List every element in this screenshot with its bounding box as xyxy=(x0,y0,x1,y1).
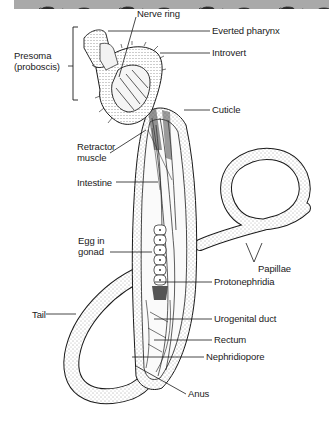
label-introvert: Introvert xyxy=(212,47,246,58)
label-egg-in-gonad: Egg in gonad xyxy=(78,235,104,257)
label-nerve-ring: Nerve ring xyxy=(137,8,180,19)
everted-pharynx-shape xyxy=(84,30,118,70)
protonephridia-shape xyxy=(152,286,168,300)
label-protonephridia: Protonephridia xyxy=(214,276,274,287)
presoma-bracket xyxy=(73,27,78,100)
label-anus: Anus xyxy=(188,388,209,399)
papillae-coil xyxy=(200,154,305,245)
label-cuticle: Cuticle xyxy=(212,104,240,115)
label-presoma: Presoma (proboscis) xyxy=(14,50,60,72)
label-tail: Tail xyxy=(32,309,46,320)
label-papillae: Papillae xyxy=(258,263,291,274)
label-urogenital-duct: Urogenital duct xyxy=(214,313,276,324)
label-nephridiopore: Nephridiopore xyxy=(206,351,264,362)
label-everted-pharynx: Everted pharynx xyxy=(212,25,280,36)
label-retractor-muscle: Retractor muscle xyxy=(77,141,115,163)
label-rectum: Rectum xyxy=(214,334,246,345)
label-intestine: Intestine xyxy=(77,177,112,188)
